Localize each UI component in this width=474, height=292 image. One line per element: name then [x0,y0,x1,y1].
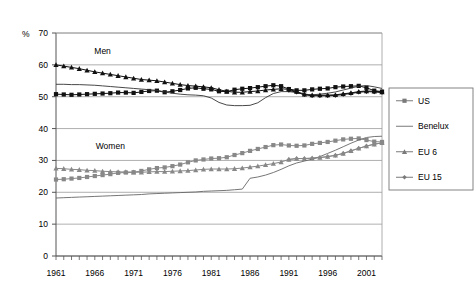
data-point-marker [271,83,275,87]
data-point-marker [170,164,174,168]
data-point-marker [186,160,190,164]
data-point-marker [248,86,252,90]
data-point-marker [54,177,58,181]
data-point-marker [318,141,322,145]
data-point-marker [100,91,104,95]
y-tick-label: 10 [39,219,49,229]
data-point-marker [155,166,159,170]
y-tick-label: 30 [39,155,49,165]
line-chart: 010203040506070 196119661971197619811986… [0,0,474,292]
data-point-marker [217,89,221,93]
y-tick-label: 50 [39,92,49,102]
data-point-marker [124,90,128,94]
data-point-marker [69,93,73,97]
x-tick-label: 1971 [124,268,143,278]
data-point-marker [349,137,353,141]
data-point-marker [132,91,136,95]
data-point-marker [279,142,283,146]
data-point-marker [295,144,299,148]
data-point-marker [108,172,112,176]
data-point-marker [287,143,291,147]
data-point-marker [201,157,205,161]
data-point-marker [62,177,66,181]
x-tick-label: 1996 [318,268,337,278]
data-point-marker [77,176,81,180]
y-tick-label: 70 [39,28,49,38]
data-point-marker [225,90,229,94]
legend-label: EU 15 [418,172,442,182]
data-point-marker [232,153,236,157]
chart-container: 010203040506070 196119661971197619811986… [0,0,474,292]
data-point-marker [116,90,120,94]
data-point-marker [271,143,275,147]
data-point-marker [85,175,89,179]
y-tick-label: 20 [39,187,49,197]
data-point-marker [132,170,136,174]
data-point-marker [85,92,89,96]
data-point-marker [279,84,283,88]
legend-label: Benelux [418,121,449,131]
data-point-marker [147,167,151,171]
group-annotation: Women [96,141,125,151]
data-point-marker [263,84,267,88]
y-tick-label: 40 [39,124,49,134]
data-point-marker [318,87,322,91]
data-point-marker [54,92,58,96]
x-tick-label: 1966 [85,268,104,278]
data-point-marker [341,137,345,141]
data-point-marker [69,176,73,180]
y-axis-unit-label: % [22,29,30,39]
data-point-marker [62,92,66,96]
data-point-marker [201,87,205,91]
x-tick-label: 1976 [163,268,182,278]
legend: USBeneluxEU 6EU 15 [389,88,473,190]
data-point-marker [326,86,330,90]
data-point-marker [93,174,97,178]
x-tick-label: 1961 [47,268,66,278]
data-point-marker [341,84,345,88]
x-tick-label: 1991 [279,268,298,278]
data-point-marker [93,92,97,96]
data-point-marker [225,155,229,159]
data-point-marker [248,149,252,153]
data-point-marker [256,147,260,151]
data-point-marker [302,143,306,147]
data-point-marker [209,156,213,160]
data-point-marker [139,169,143,173]
data-point-marker [333,85,337,89]
data-point-marker [333,139,337,143]
x-tick-label: 1981 [202,268,221,278]
data-point-marker [310,87,314,91]
data-point-marker [108,91,112,95]
data-point-marker [402,99,406,103]
group-annotation: Men [94,46,111,56]
data-point-marker [186,86,190,90]
data-point-marker [124,170,128,174]
data-point-marker [163,165,167,169]
legend-label: US [418,96,430,106]
data-point-marker [364,86,368,90]
data-point-marker [100,173,104,177]
data-point-marker [209,87,213,91]
data-point-marker [178,162,182,166]
data-point-marker [178,88,182,92]
data-point-marker [240,87,244,91]
data-point-marker [364,138,368,142]
y-tick-label: 60 [39,60,49,70]
y-tick-label: 0 [43,251,48,261]
x-tick-label: 2001 [357,268,376,278]
data-point-marker [263,145,267,149]
data-point-marker [302,88,306,92]
x-tick-label: 1986 [241,268,260,278]
data-point-marker [194,86,198,90]
data-point-marker [240,151,244,155]
data-point-marker [326,140,330,144]
data-point-marker [256,85,260,89]
data-point-marker [194,158,198,162]
data-point-marker [232,88,236,92]
data-point-marker [217,156,221,160]
data-point-marker [310,142,314,146]
data-point-marker [77,92,81,96]
data-point-marker [116,171,120,175]
data-point-marker [139,90,143,94]
